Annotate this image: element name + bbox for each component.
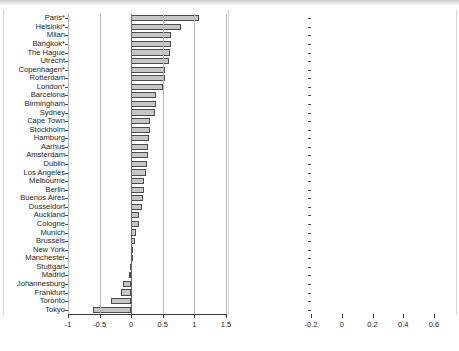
category-tick	[308, 155, 311, 156]
bar	[131, 127, 149, 133]
category-tick	[65, 173, 68, 174]
chart-panel-left: Paris*Helsinki*MilanBangkok*The HagueUtr…	[0, 0, 230, 351]
bar	[131, 169, 146, 175]
value-axis-left	[68, 314, 227, 315]
gridline	[194, 14, 195, 314]
category-tick	[308, 284, 311, 285]
category-tick	[308, 35, 311, 36]
x-tick	[373, 314, 374, 318]
category-tick	[308, 181, 311, 182]
category-tick	[65, 258, 68, 259]
category-tick	[308, 53, 311, 54]
x-tick	[163, 314, 164, 318]
category-tick	[65, 181, 68, 182]
bar	[131, 118, 150, 124]
category-tick	[65, 301, 68, 302]
category-tick	[308, 147, 311, 148]
x-tick-label: 0.4	[398, 320, 408, 329]
bar	[131, 152, 148, 158]
category-tick	[65, 207, 68, 208]
figure-root: Paris*Helsinki*MilanBangkok*The HagueUtr…	[0, 0, 459, 351]
category-tick	[65, 27, 68, 28]
category-tick	[65, 61, 68, 62]
category-tick	[65, 250, 68, 251]
category-tick	[65, 95, 68, 96]
x-tick-label: 0	[340, 320, 344, 329]
category-tick	[308, 293, 311, 294]
category-tick	[308, 301, 311, 302]
category-tick	[65, 293, 68, 294]
category-tick	[65, 138, 68, 139]
gridline	[68, 14, 69, 314]
bar	[131, 32, 171, 38]
category-tick	[65, 215, 68, 216]
category-tick	[65, 78, 68, 79]
bar	[131, 212, 139, 218]
category-tick	[65, 113, 68, 114]
category-tick	[65, 190, 68, 191]
category-tick	[308, 310, 311, 311]
category-tick	[65, 70, 68, 71]
bar	[131, 161, 147, 167]
bar	[131, 92, 156, 98]
x-tick	[342, 314, 343, 318]
bar	[131, 15, 199, 21]
category-tick	[308, 113, 311, 114]
category-tick	[65, 310, 68, 311]
category-tick	[65, 104, 68, 105]
category-tick	[308, 95, 311, 96]
x-tick	[311, 314, 312, 318]
bar	[131, 101, 156, 107]
bar	[123, 281, 131, 287]
category-tick	[308, 241, 311, 242]
category-tick	[308, 70, 311, 71]
category-tick	[65, 53, 68, 54]
category-tick	[308, 44, 311, 45]
bar	[131, 41, 171, 47]
x-tick-label: -0.5	[93, 320, 106, 329]
category-tick	[308, 173, 311, 174]
category-tick	[65, 284, 68, 285]
bar	[131, 84, 163, 90]
bar	[131, 135, 149, 141]
category-tick	[308, 215, 311, 216]
x-tick	[194, 314, 195, 318]
bar	[131, 195, 143, 201]
category-tick	[308, 78, 311, 79]
category-tick	[65, 44, 68, 45]
category-tick	[65, 275, 68, 276]
category-tick	[308, 233, 311, 234]
x-tick	[68, 314, 69, 318]
category-tick	[308, 18, 311, 19]
bar	[131, 187, 144, 193]
category-tick	[65, 35, 68, 36]
plot-area-left	[68, 14, 226, 314]
bar	[131, 178, 144, 184]
x-tick-label: -0.2	[305, 320, 318, 329]
category-tick	[65, 87, 68, 88]
category-tick	[308, 190, 311, 191]
chart-panel-right: Johannesburg*Cape Town*New York*Los Ange…	[230, 0, 459, 351]
category-tick	[308, 138, 311, 139]
category-tick	[65, 267, 68, 268]
bar	[121, 289, 131, 295]
bar	[93, 307, 132, 313]
bar	[131, 221, 139, 227]
x-tick	[100, 314, 101, 318]
bar-series-left	[68, 14, 226, 314]
bar	[131, 204, 142, 210]
category-tick	[308, 258, 311, 259]
category-tick	[308, 250, 311, 251]
category-tick	[65, 233, 68, 234]
category-tick	[65, 121, 68, 122]
category-tick	[65, 198, 68, 199]
zero-line	[131, 14, 132, 314]
x-tick	[434, 314, 435, 318]
bar	[131, 24, 181, 30]
category-tick	[308, 104, 311, 105]
x-tick-label: 0.2	[367, 320, 377, 329]
bar	[131, 75, 165, 81]
gridline	[226, 14, 227, 314]
category-tick	[308, 121, 311, 122]
bar	[131, 49, 170, 55]
